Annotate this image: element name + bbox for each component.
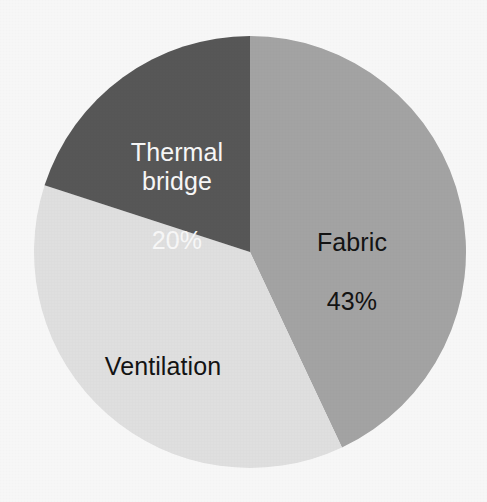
- pie-label-fabric-name: Fabric: [286, 228, 418, 258]
- pie-label-fabric: Fabric 43%: [286, 198, 418, 346]
- pie-label-fabric-value: 43%: [286, 287, 418, 317]
- pie-label-thermal-bridge: Thermal bridge 20%: [104, 108, 250, 285]
- pie-chart: Thermal bridge 20% Fabric 43% Ventilatio…: [0, 0, 487, 502]
- pie-label-thermal-bridge-name: Thermal bridge: [104, 138, 250, 197]
- pie-label-ventilation-name: Ventilation: [88, 352, 238, 382]
- pie-label-thermal-bridge-value: 20%: [104, 226, 250, 256]
- pie-label-ventilation: Ventilation: [88, 322, 238, 440]
